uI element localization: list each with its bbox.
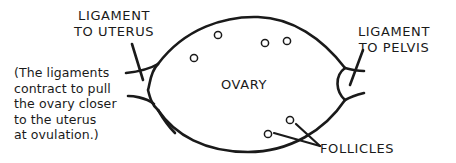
left-ligament [126, 44, 175, 133]
follicle [283, 37, 290, 44]
follicle [214, 31, 221, 38]
label-follicles: FOLLICLES [320, 141, 394, 157]
ligament-note: (The ligaments contract to pull the ovar… [14, 65, 117, 143]
right-ligament [337, 50, 364, 100]
label-ligament-to-pelvis: LIGAMENT TO PELVIS [358, 24, 430, 56]
follicle [264, 130, 271, 137]
label-ovary: OVARY [221, 77, 267, 93]
follicle [190, 54, 197, 61]
label-ligament-to-uterus: LIGAMENT TO UTERUS [74, 8, 154, 40]
follicle [286, 116, 293, 123]
follicle [261, 39, 268, 46]
follicles-pointer [274, 124, 320, 146]
